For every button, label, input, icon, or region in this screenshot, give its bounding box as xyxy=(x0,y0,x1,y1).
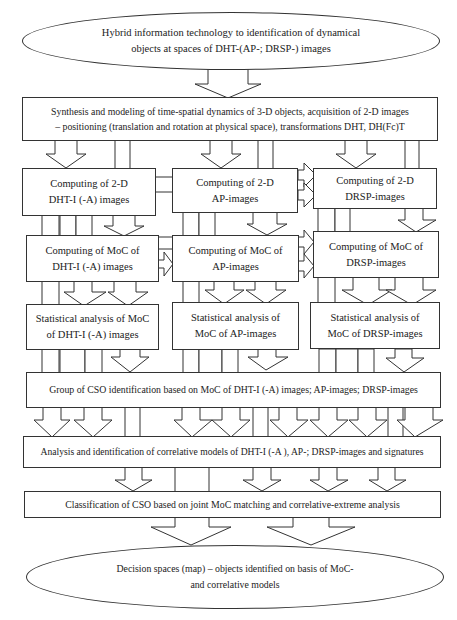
arrow-down-icon xyxy=(74,407,112,437)
group-cso-box: Group of CSO identification based on MoC… xyxy=(26,372,441,408)
box-line1: Computing of MoC of xyxy=(45,243,139,259)
arrow-down-icon xyxy=(342,277,392,305)
box-line1: Computing of MoC of xyxy=(329,239,423,255)
arrow-down-icon xyxy=(201,140,241,168)
computing-2d-ap-box: Computing of 2-D AP-images xyxy=(172,168,298,213)
box-line1: Computing of 2-D xyxy=(49,176,130,192)
computing-2d-drsp-box: Computing of 2-D DRSP-images xyxy=(313,168,437,209)
box-line2: DHT-I (-A) images xyxy=(49,192,130,208)
arrow-down-icon xyxy=(243,467,281,491)
arrow-down-icon xyxy=(310,407,348,437)
box-line1: Computing of 2-D xyxy=(196,175,274,191)
computing-moc-dht-box: Computing of MoC of DHT-I (-A) images xyxy=(26,235,159,282)
arrow-right-icon xyxy=(298,254,314,278)
box-line2: DHT-I (-A) images xyxy=(45,259,139,275)
arrow-down-icon xyxy=(104,215,144,236)
box-line1: Computing of 2-D xyxy=(336,173,414,189)
arrow-down-icon xyxy=(205,281,244,304)
computing-moc-drsp-box: Computing of MoC of DRSP-images xyxy=(313,231,439,278)
statistical-drsp-box: Statistical analysis of MoC of DRSP-imag… xyxy=(310,302,440,349)
box-line1: Computing of MoC of xyxy=(188,243,282,259)
box-line2: DRSP-images xyxy=(329,255,423,271)
computing-moc-ap-box: Computing of MoC of AP-images xyxy=(172,235,299,282)
box-line1: Statistical analysis of xyxy=(327,310,422,326)
box-line2: AP-images xyxy=(196,191,274,207)
statistical-dht-box: Statistical analysis of MoC of DHT-I (-A… xyxy=(26,304,159,350)
analysis-text: Analysis and identification of correlati… xyxy=(41,444,424,460)
arrow-down-icon xyxy=(247,212,287,235)
synthesis-line1: Synthesis and modeling of time-spatial d… xyxy=(51,104,409,119)
arrow-down-icon xyxy=(310,467,348,491)
classification-text: Classification of CSO based on joint MoC… xyxy=(65,497,400,513)
arrow-down-icon xyxy=(369,467,406,491)
arrow-down-icon xyxy=(386,349,424,372)
arrow-down-icon xyxy=(246,281,286,304)
statistical-ap-box: Statistical analysis of MoC of AP-images xyxy=(172,302,299,350)
arrow-down-icon xyxy=(349,407,387,437)
box-line2: AP-images xyxy=(188,259,282,275)
computing-2d-dht-box: Computing of 2-D DHT-I (-A) images xyxy=(22,168,156,216)
box-line2: MoC of AP-images xyxy=(191,326,280,342)
box-line1: Statistical analysis of MoC xyxy=(36,311,149,327)
arrow-down-icon xyxy=(212,407,250,437)
bottom-ellipse-decision: Decision spaces (map) – objects identifi… xyxy=(26,545,444,609)
box-line2: MoC of DRSP-images xyxy=(327,326,422,342)
arrow-down-icon xyxy=(64,281,106,306)
arrow-down-icon xyxy=(267,517,355,545)
group-cso-text: Group of CSO identification based on MoC… xyxy=(49,382,418,398)
analysis-box: Analysis and identification of correlati… xyxy=(23,436,441,468)
arrow-down-icon xyxy=(151,517,231,545)
box-line2: DRSP-images xyxy=(336,189,414,205)
arrow-down-icon xyxy=(336,140,376,168)
top-ellipse-line2: objects at spaces of DHT-(AP-; DRSP-) im… xyxy=(102,41,360,57)
arrow-right-icon xyxy=(158,252,173,276)
arrow-down-icon xyxy=(398,208,436,232)
arrow-down-icon xyxy=(111,349,149,372)
classification-box: Classification of CSO based on joint MoC… xyxy=(24,491,441,518)
box-line2: of DHT-I (-A) images xyxy=(36,327,149,343)
box-line1: Statistical analysis of xyxy=(191,310,280,326)
bottom-ellipse-line2: and correlative models xyxy=(117,577,354,593)
top-ellipse-line1: Hybrid information technology to identif… xyxy=(102,25,360,41)
arrow-down-icon xyxy=(397,407,443,437)
arrow-down-icon xyxy=(270,407,308,437)
synthesis-line2: – positioning (translation and rotation … xyxy=(51,119,409,134)
arrow-down-icon xyxy=(386,277,436,305)
arrow-down-icon xyxy=(115,467,152,491)
arrow-down-icon xyxy=(174,407,212,437)
arrow-right-icon xyxy=(298,230,314,254)
arrow-down-icon xyxy=(34,407,70,437)
arrow-down-icon xyxy=(248,349,288,370)
top-ellipse-title: Hybrid information technology to identif… xyxy=(22,12,440,70)
arrow-down-icon xyxy=(108,281,148,306)
bottom-ellipse-line1: Decision spaces (map) – objects identifi… xyxy=(117,561,354,577)
synthesis-box: Synthesis and modeling of time-spatial d… xyxy=(22,97,438,141)
arrow-down-icon xyxy=(195,68,261,98)
arrow-down-icon xyxy=(46,140,86,168)
